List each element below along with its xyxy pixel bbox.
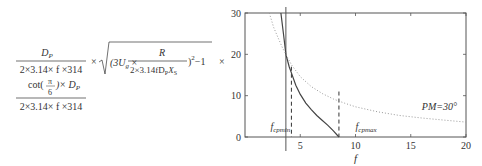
y-tick-label: 0: [236, 132, 241, 143]
plot-frame: [245, 13, 466, 137]
chart: 51015200102030f fcpminfcpmaxPM=30°: [0, 0, 482, 166]
x-tick-label: 10: [351, 140, 361, 151]
chart-axes: 51015200102030f: [231, 8, 471, 165]
chart-annotation: fcpmin: [270, 121, 290, 134]
y-tick-label: 20: [231, 49, 241, 60]
chart-annotation: PM=30°: [421, 101, 457, 112]
x-tick-label: 20: [461, 140, 471, 151]
chart-annotations: fcpminfcpmaxPM=30°: [270, 101, 457, 133]
series-solid-curve: [281, 13, 339, 137]
x-axis-label: f: [354, 152, 359, 164]
x-tick-label: 15: [406, 140, 416, 151]
chart-annotation: fcpmax: [356, 121, 378, 134]
y-tick-label: 30: [231, 8, 241, 19]
x-tick-label: 5: [298, 140, 303, 151]
y-tick-label: 10: [231, 90, 241, 101]
